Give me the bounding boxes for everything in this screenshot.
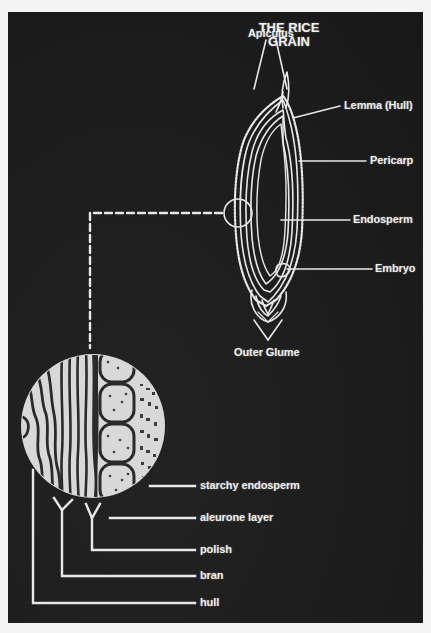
label-lemma: Lemma (Hull) <box>344 99 412 111</box>
polish-leader <box>86 504 195 550</box>
label-apiculus: Apiculus <box>248 27 294 39</box>
label-pericarp: Pericarp <box>370 154 413 166</box>
bran-leader-branch <box>62 500 72 510</box>
grain-endosperm <box>257 124 286 276</box>
label-endosperm: Endosperm <box>353 213 413 225</box>
bran-leader <box>54 498 195 576</box>
glume-leader-left <box>254 320 268 340</box>
label-starchy-endosperm: starchy endosperm <box>200 479 300 491</box>
rice-grain-illustration <box>0 0 431 633</box>
polish-leader-branch <box>92 504 100 518</box>
label-hull: hull <box>200 596 219 608</box>
glume-leader-right <box>268 320 282 340</box>
lemma-leader <box>293 106 340 118</box>
magnified-cross-section <box>14 350 165 512</box>
magnify-connector <box>90 213 222 348</box>
label-bran: bran <box>200 569 223 581</box>
grain-magnify-marker <box>224 199 252 227</box>
label-outer-glume: Outer Glume <box>234 346 300 358</box>
label-embryo: Embryo <box>375 262 415 274</box>
label-polish: polish <box>200 543 232 555</box>
label-aleurone-layer: aleurone layer <box>200 511 273 523</box>
grain-apiculus <box>276 72 289 112</box>
